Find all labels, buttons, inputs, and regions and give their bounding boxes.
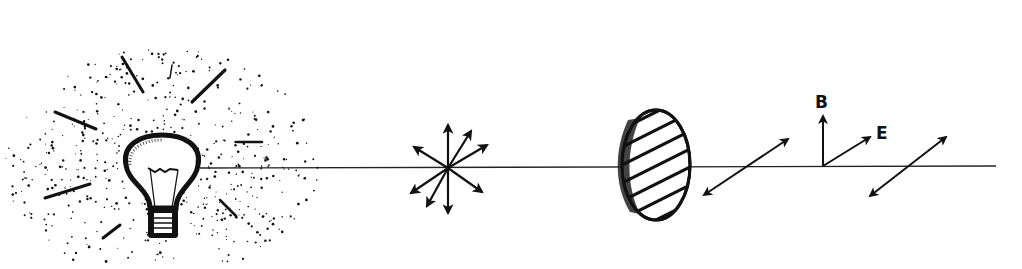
polarizer-filter-icon [600,80,720,266]
light-beam-line [200,166,996,168]
polarization-diagram: B E [0,0,1022,269]
field-vectors-icon [823,116,870,166]
e-field-label: E [876,123,888,143]
light-bulb-icon [125,135,198,238]
unpolarized-light-icon [411,125,487,213]
b-field-label: B [815,92,828,112]
